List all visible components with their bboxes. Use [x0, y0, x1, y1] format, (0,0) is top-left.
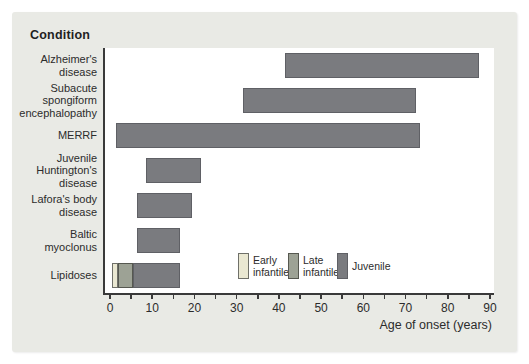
x-axis-tick: [194, 295, 196, 299]
x-axis-tick-label: 80: [441, 301, 454, 315]
category-label: MERRF: [12, 118, 97, 153]
legend-label: Lateinfantile: [303, 254, 339, 278]
legend-swatch: [288, 253, 299, 279]
bar-segment: [137, 193, 192, 218]
category-label-line: Baltic: [12, 228, 97, 240]
bar-segment: [146, 158, 201, 183]
category-label: JuvenileHuntington'sdisease: [12, 153, 97, 188]
bar-segment: [118, 263, 133, 288]
category-label: Lipidoses: [12, 258, 97, 293]
x-axis-tick-label: 50: [314, 301, 327, 315]
legend-label-line: infantile: [253, 266, 289, 278]
x-axis-tick: [468, 295, 470, 299]
category-label-line: disease: [12, 206, 97, 218]
figure-panel: Condition Alzheimer'sdiseaseSubacutespon…: [12, 12, 517, 352]
x-axis-tick: [151, 295, 153, 299]
legend-item: Earlyinfantile: [238, 253, 289, 279]
plot-area: EarlyinfantileLateinfantileJuvenile: [103, 48, 494, 295]
x-axis-tick: [405, 295, 407, 299]
x-axis-tick: [299, 295, 301, 299]
category-label: Alzheimer'sdisease: [12, 48, 97, 83]
x-axis-tick-label: 20: [188, 301, 201, 315]
category-label-line: spongiform: [12, 94, 97, 106]
y-axis-title: Condition: [30, 28, 90, 42]
legend-label-line: infantile: [303, 266, 339, 278]
legend-swatch: [337, 253, 348, 279]
x-axis-tick-label: 90: [483, 301, 496, 315]
x-axis-title: Age of onset (years): [379, 318, 492, 332]
category-label-column: Alzheimer'sdiseaseSubacutespongiformence…: [12, 48, 97, 293]
legend-item: Juvenile: [337, 253, 391, 279]
x-axis-tick: [130, 295, 132, 299]
x-axis-tick-label: 30: [230, 301, 243, 315]
legend-label-line: Juvenile: [352, 260, 391, 272]
bar-segment: [243, 88, 416, 113]
x-axis-tick: [278, 295, 280, 299]
legend-label-line: Late: [303, 254, 339, 266]
x-axis-tick: [341, 295, 343, 299]
category-label-line: Lipidoses: [12, 269, 97, 281]
category-label: Balticmyoclonus: [12, 223, 97, 258]
bar-segment: [116, 123, 420, 148]
category-label: Subacutespongiformencephalopathy: [12, 83, 97, 118]
legend-label-line: Early: [253, 254, 289, 266]
x-axis-tick: [426, 295, 428, 299]
x-axis-tick: [257, 295, 259, 299]
category-label-line: disease: [12, 177, 97, 189]
x-axis-tick-label: 0: [107, 301, 114, 315]
x-axis-tick-label: 60: [357, 301, 370, 315]
bar-segment: [137, 228, 179, 253]
x-axis-tick: [173, 295, 175, 299]
bar-segment: [285, 53, 479, 78]
x-axis-tick: [236, 295, 238, 299]
x-axis-tick-label: 40: [272, 301, 285, 315]
x-axis-tick: [215, 295, 217, 299]
x-axis-tick: [109, 295, 111, 299]
x-axis-tick-label: 70: [399, 301, 412, 315]
x-axis-tick-label: 10: [146, 301, 159, 315]
category-label-line: disease: [12, 66, 97, 78]
x-axis-tick: [320, 295, 322, 299]
category-label-line: MERRF: [12, 129, 97, 141]
category-label-line: myoclonus: [12, 241, 97, 253]
x-axis-tick: [489, 295, 491, 299]
x-axis-tick: [384, 295, 386, 299]
category-label: Lafora's bodydisease: [12, 188, 97, 223]
legend-label: Juvenile: [352, 260, 391, 272]
x-axis-tick: [447, 295, 449, 299]
category-label-line: Huntington's: [12, 164, 97, 176]
legend-swatch: [238, 253, 249, 279]
bar-segment: [133, 263, 179, 288]
category-label-line: Subacute: [12, 82, 97, 94]
legend-item: Lateinfantile: [288, 253, 339, 279]
category-label-line: encephalopathy: [12, 107, 97, 119]
x-axis-tick: [363, 295, 365, 299]
category-label-line: Alzheimer's: [12, 53, 97, 65]
legend-label: Earlyinfantile: [253, 254, 289, 278]
category-label-line: Lafora's body: [12, 193, 97, 205]
category-label-line: Juvenile: [12, 152, 97, 164]
